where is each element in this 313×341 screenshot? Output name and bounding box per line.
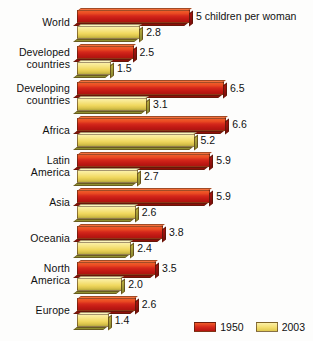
bar-face xyxy=(77,134,195,147)
chart-row: Developingcountries6.53.1 xyxy=(0,81,313,115)
bar-value-label: 3.5 xyxy=(162,262,177,275)
bar-group: 3.52.0 xyxy=(75,261,313,295)
category-label-line: America xyxy=(0,275,70,287)
legend-swatch-2003-icon xyxy=(256,322,278,332)
bar-1950[interactable] xyxy=(77,226,163,239)
category-label: LatinAmerica xyxy=(0,155,70,178)
bar-value-label: 3.8 xyxy=(169,226,184,239)
bar-1950[interactable] xyxy=(77,298,136,311)
bar-bottom-face xyxy=(73,219,134,222)
bar-slot: 3.8 xyxy=(75,226,313,241)
bar-top-face xyxy=(77,260,158,263)
bar-2003[interactable] xyxy=(77,62,111,75)
bar-value-label: 5 children per woman xyxy=(196,10,296,23)
category-label-line: America xyxy=(0,167,70,179)
bar-top-face xyxy=(77,204,138,207)
bar-top-face xyxy=(77,296,138,299)
bar-group: 3.82.4 xyxy=(75,225,313,259)
bar-end-cap xyxy=(110,62,114,78)
bar-end-cap xyxy=(139,26,143,42)
category-label-line: Europe xyxy=(0,305,70,317)
chart-row: NorthAmerica3.52.0 xyxy=(0,261,313,295)
bar-slot: 3.5 xyxy=(75,262,313,277)
bar-face xyxy=(77,190,210,203)
bar-top-face xyxy=(77,80,226,83)
bar-slot: 6.6 xyxy=(75,118,313,133)
bar-top-face xyxy=(77,312,110,315)
category-label: Europe xyxy=(0,305,70,317)
category-label-line: Developed xyxy=(0,47,70,59)
bar-1950[interactable] xyxy=(77,46,134,59)
bar-value-label: 2.5 xyxy=(140,46,155,59)
bar-bottom-face xyxy=(73,147,192,150)
bar-slot: 5 children per woman xyxy=(75,10,313,25)
bar-2003[interactable] xyxy=(77,278,122,291)
bar-2003[interactable] xyxy=(77,242,131,255)
bar-slot: 2.5 xyxy=(75,46,313,61)
bar-value-label: 6.6 xyxy=(232,118,247,131)
chart-legend: 1950 2003 xyxy=(0,321,305,333)
bar-top-face xyxy=(77,240,133,243)
bar-slot: 2.7 xyxy=(75,170,313,185)
bar-2003[interactable] xyxy=(77,98,147,111)
legend-label-1950: 1950 xyxy=(220,321,243,333)
bar-end-cap xyxy=(225,118,229,134)
bar-face xyxy=(77,154,210,167)
bar-top-face xyxy=(77,188,212,191)
bar-1950[interactable] xyxy=(77,190,210,203)
bar-value-label: 2.8 xyxy=(146,26,161,39)
bar-group: 5.92.6 xyxy=(75,189,313,223)
bar-slot: 2.6 xyxy=(75,298,313,313)
bar-2003[interactable] xyxy=(77,170,138,183)
bar-group: 6.65.2 xyxy=(75,117,313,151)
bar-top-face xyxy=(77,224,165,227)
bar-face xyxy=(77,62,111,75)
category-label: Asia xyxy=(0,197,70,209)
bar-group: 5.92.7 xyxy=(75,153,313,187)
legend-item-1950[interactable]: 1950 xyxy=(194,321,243,333)
bar-1950[interactable] xyxy=(77,262,156,275)
bar-slot: 5.2 xyxy=(75,134,313,149)
bar-value-label: 6.5 xyxy=(230,82,245,95)
bar-top-face xyxy=(77,44,135,47)
bar-bottom-face xyxy=(73,291,120,294)
bar-slot: 1.5 xyxy=(75,62,313,77)
bar-top-face xyxy=(77,60,113,63)
bar-bottom-face xyxy=(73,39,138,42)
bar-bottom-face xyxy=(73,183,136,186)
bar-slot: 2.0 xyxy=(75,278,313,293)
bar-2003[interactable] xyxy=(77,26,140,39)
category-label-line: countries xyxy=(0,59,70,71)
category-label-line: Asia xyxy=(0,197,70,209)
bar-value-label: 5.9 xyxy=(216,190,231,203)
bar-end-cap xyxy=(146,98,150,114)
bar-top-face xyxy=(77,276,124,279)
bar-slot: 2.6 xyxy=(75,206,313,221)
bar-face xyxy=(77,46,134,59)
bar-end-cap xyxy=(137,170,141,186)
bar-end-cap xyxy=(135,206,139,222)
bar-end-cap xyxy=(209,190,213,206)
chart-row: Developedcountries2.51.5 xyxy=(0,45,313,79)
bar-2003[interactable] xyxy=(77,134,195,147)
bar-end-cap xyxy=(223,82,227,98)
bar-end-cap xyxy=(209,154,213,170)
bar-value-label: 2.0 xyxy=(128,278,143,291)
category-label: NorthAmerica xyxy=(0,263,70,286)
category-label-line: Africa xyxy=(0,125,70,137)
bar-slot: 5.9 xyxy=(75,190,313,205)
chart-row: World5 children per woman2.8 xyxy=(0,9,313,43)
bar-1950[interactable] xyxy=(77,10,190,23)
bar-value-label: 2.4 xyxy=(137,242,152,255)
legend-item-2003[interactable]: 2003 xyxy=(256,321,305,333)
bar-end-cap xyxy=(133,46,137,62)
bar-1950[interactable] xyxy=(77,82,224,95)
bar-slot: 2.8 xyxy=(75,26,313,41)
category-label: Oceania xyxy=(0,233,70,245)
bar-bottom-face xyxy=(73,255,129,258)
bar-1950[interactable] xyxy=(77,118,226,131)
bar-slot: 3.1 xyxy=(75,98,313,113)
category-label-line: World xyxy=(0,17,70,29)
bar-2003[interactable] xyxy=(77,206,136,219)
bar-1950[interactable] xyxy=(77,154,210,167)
